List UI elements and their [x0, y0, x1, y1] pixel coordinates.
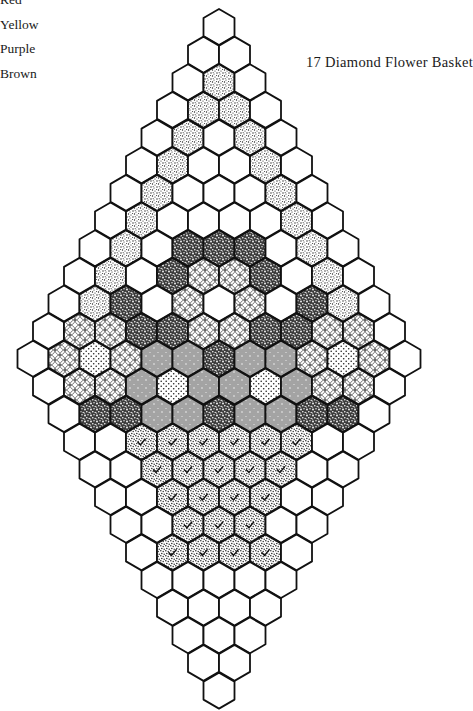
hexagon-grid — [18, 9, 421, 709]
hex-tile-white — [204, 673, 235, 709]
